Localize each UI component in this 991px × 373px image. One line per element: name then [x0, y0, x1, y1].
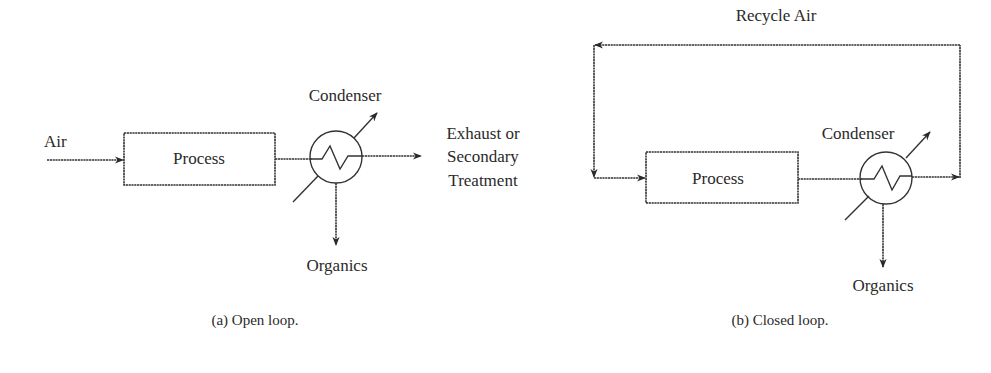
- coolant-in-line-closed: [845, 196, 869, 220]
- exhaust-label-line-2: Secondary: [447, 147, 519, 166]
- exhaust-label-line-3: Treatment: [448, 171, 518, 190]
- open-loop-diagram: Air Process Condenser Organics Exhaust o…: [44, 86, 520, 329]
- closed-loop-caption: (b) Closed loop.: [731, 312, 828, 329]
- exhaust-label-line-1: Exhaust or: [446, 124, 520, 143]
- condenser-label: Condenser: [309, 86, 382, 105]
- condenser-icon-closed: [860, 152, 912, 204]
- open-loop-caption: (a) Open loop.: [211, 312, 298, 329]
- coolant-in-line: [293, 176, 318, 202]
- condenser-icon: [310, 131, 362, 183]
- organics-label: Organics: [306, 256, 367, 275]
- organics-label-closed: Organics: [852, 276, 913, 295]
- process-label: Process: [173, 149, 225, 168]
- air-inlet-label: Air: [44, 132, 67, 151]
- closed-loop-diagram: Recycle Air Process Condenser Organics (…: [594, 6, 960, 329]
- coolant-out-arrow: [354, 113, 377, 138]
- coolant-out-arrow-closed: [906, 132, 930, 158]
- condenser-label-closed: Condenser: [822, 124, 895, 143]
- condenser-flow-diagrams: Air Process Condenser Organics Exhaust o…: [0, 0, 991, 373]
- process-label-closed: Process: [692, 169, 744, 188]
- recycle-air-label: Recycle Air: [736, 6, 817, 25]
